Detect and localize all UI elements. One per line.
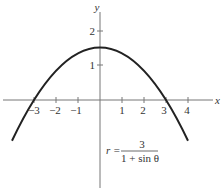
equation-lhs: r =: [106, 144, 120, 156]
x-tick-label: −2: [49, 104, 61, 116]
polar-plot: −3 −2 −1 1 2 3 4 1 2 x y r = 3 1 + sin θ: [0, 0, 224, 190]
equation-numerator: 3: [139, 138, 145, 150]
y-tick-label: 1: [90, 59, 96, 71]
equation-denominator: 1 + sin θ: [121, 152, 159, 164]
y-tick-label: 2: [90, 25, 96, 37]
x-tick-label: 3: [161, 104, 167, 116]
equation-label: r = 3 1 + sin θ: [106, 138, 159, 164]
x-tick-label: 1: [119, 104, 125, 116]
x-tick-label: 4: [184, 104, 190, 116]
x-axis-label: x: [214, 94, 220, 106]
y-axis-label: y: [94, 1, 100, 13]
x-tick-label: −1: [70, 104, 82, 116]
x-tick-label: 2: [140, 104, 146, 116]
